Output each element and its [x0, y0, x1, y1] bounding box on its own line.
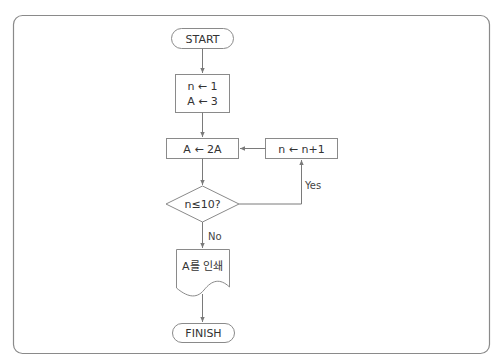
- start-node: START: [172, 29, 234, 49]
- init-line-1: n ← 1: [187, 80, 217, 93]
- print-node: A를 인쇄: [177, 250, 230, 296]
- init-node: n ← 1 A ← 3: [176, 75, 230, 113]
- edge-decision-increment: [239, 160, 302, 204]
- finish-label: FINISH: [185, 327, 221, 340]
- yes-label: Yes: [304, 180, 321, 191]
- print-label: A를 인쇄: [182, 260, 223, 273]
- increment-node: n ← n+1: [266, 139, 338, 159]
- flowchart-canvas: START n ← 1 A ← 3 A ← 2A n ← n+1 n≤10? Y…: [0, 0, 503, 360]
- double-label: A ← 2A: [183, 143, 222, 156]
- increment-label: n ← n+1: [278, 143, 324, 156]
- outer-frame: [14, 16, 490, 354]
- decision-node: n≤10?: [166, 186, 239, 222]
- double-node: A ← 2A: [167, 139, 239, 159]
- start-label: START: [186, 33, 220, 46]
- init-line-2: A ← 3: [187, 95, 218, 108]
- no-label: No: [208, 231, 222, 242]
- finish-node: FINISH: [173, 324, 235, 343]
- decision-label: n≤10?: [184, 198, 220, 211]
